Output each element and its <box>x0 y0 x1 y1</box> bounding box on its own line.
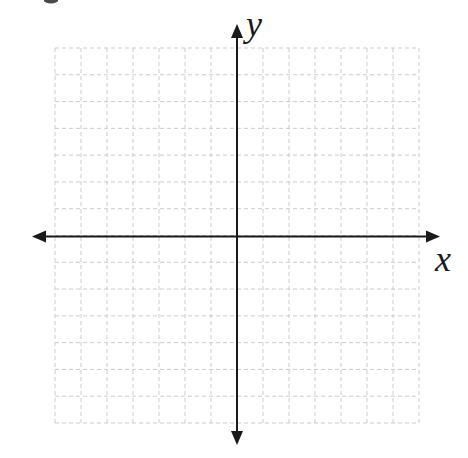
x-axis-label: x <box>434 239 451 279</box>
y-axis <box>231 24 243 445</box>
y-axis-label: y <box>243 4 262 44</box>
y-axis-bottom-arrow-icon <box>231 431 243 445</box>
x-axis-left-arrow-icon <box>32 231 46 243</box>
y-axis-top-arrow-icon <box>231 24 243 38</box>
scan-artifact-mark <box>44 0 58 4</box>
coordinate-plane-svg: y x <box>0 0 468 458</box>
coordinate-plane: y x <box>0 0 468 458</box>
